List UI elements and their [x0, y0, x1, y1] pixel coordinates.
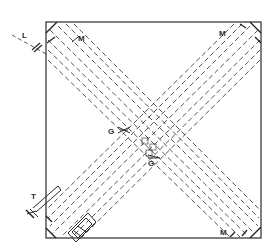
label-M-bottom-right: M	[220, 228, 227, 237]
beam-bundle-tl-br	[48, 24, 260, 237]
glass-plate-lower	[148, 155, 160, 158]
label-G-upper: G	[108, 127, 114, 136]
label-T: T	[31, 192, 36, 201]
mirror-bottom-right	[230, 227, 261, 238]
mirror-top-left	[46, 22, 57, 43]
beam-bundle-tr-bl	[48, 24, 260, 237]
label-G-lower: G	[148, 159, 154, 168]
mirror-bottom-left	[46, 216, 56, 238]
label-L: L	[22, 31, 27, 40]
interferometer-diagram: L M M M G G T	[0, 0, 273, 250]
frame	[46, 22, 261, 238]
label-M-top-left: M	[78, 34, 85, 43]
label-M-top-right: M	[219, 29, 226, 38]
light-path-L	[12, 35, 48, 55]
telescope	[26, 186, 61, 218]
